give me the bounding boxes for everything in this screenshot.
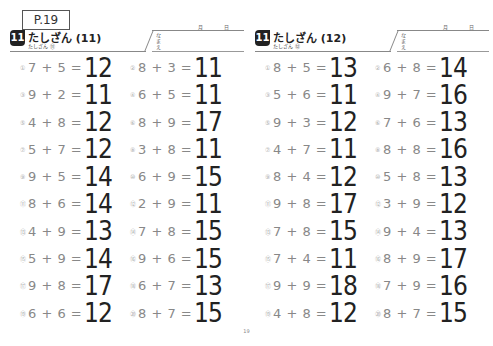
problem-number: ⑯	[130, 254, 138, 263]
problem-item: ⑩5 + 8 =13	[375, 163, 485, 190]
problem-item: ⑯9 + 6 =15	[130, 245, 240, 272]
problem-answer[interactable]: 15	[194, 246, 222, 272]
problem-answer[interactable]: 11	[329, 136, 357, 162]
problem-answer[interactable]: 16	[439, 273, 467, 299]
header-underline	[255, 51, 391, 52]
problem-answer[interactable]: 15	[194, 218, 222, 244]
problem-answer[interactable]: 12	[329, 300, 357, 326]
header-underline	[10, 51, 146, 52]
problem-answer[interactable]: 11	[194, 55, 222, 81]
problem-answer[interactable]: 14	[84, 191, 112, 217]
problem-equation: 9 + 8 =	[273, 196, 327, 211]
name-date-box[interactable]: なまえ月日	[389, 26, 489, 52]
problem-answer[interactable]: 13	[439, 164, 467, 190]
problem-item: ⑨8 + 4 =12	[265, 163, 375, 190]
problem-number: ⑰	[265, 281, 273, 290]
problem-number: ⑭	[130, 227, 138, 236]
worksheet-header: 11たしざん (12)たしざん ⑫なまえ月日	[255, 26, 485, 52]
problem-item: ⑯8 + 9 =17	[375, 245, 485, 272]
problem-answer[interactable]: 15	[439, 300, 467, 326]
problem-answer[interactable]: 11	[194, 82, 222, 108]
problem-number: ②	[130, 64, 138, 71]
problem-answer[interactable]: 15	[194, 300, 222, 326]
problem-answer[interactable]: 11	[329, 246, 357, 272]
problem-number: ⑫	[375, 199, 383, 208]
problem-answer[interactable]: 13	[329, 55, 357, 81]
problem-item: ②6 + 8 =14	[375, 54, 485, 81]
problem-equation: 4 + 7 =	[273, 142, 327, 157]
problem-number: ⑦	[265, 146, 273, 153]
problem-answer[interactable]: 12	[84, 300, 112, 326]
problem-item: ⑧8 + 8 =16	[375, 136, 485, 163]
problem-answer[interactable]: 11	[194, 136, 222, 162]
problem-item: ⑨9 + 5 =14	[20, 163, 130, 190]
problem-item: ⑰9 + 9 =18	[265, 272, 375, 299]
problem-answer[interactable]: 11	[84, 82, 112, 108]
problem-equation: 9 + 2 =	[28, 87, 82, 102]
problem-answer[interactable]: 11	[194, 191, 222, 217]
problem-number: ⑯	[375, 254, 383, 263]
problem-item: ⑱7 + 9 =16	[375, 272, 485, 299]
problem-equation: 8 + 9 =	[383, 251, 437, 266]
problem-answer[interactable]: 13	[439, 218, 467, 244]
worksheet-subtitle: たしざん ⑪	[28, 42, 55, 49]
problem-item: ④9 + 7 =16	[375, 81, 485, 108]
problem-answer[interactable]: 13	[439, 109, 467, 135]
problem-answer[interactable]: 15	[194, 164, 222, 190]
name-label: なまえ	[401, 32, 407, 50]
name-label: なまえ	[156, 32, 162, 50]
problem-item: ①7 + 5 =12	[20, 54, 130, 81]
problem-answer[interactable]: 17	[194, 109, 222, 135]
problem-equation: 5 + 6 =	[273, 87, 327, 102]
problem-answer[interactable]: 16	[439, 136, 467, 162]
problem-equation: 3 + 9 =	[383, 196, 437, 211]
problem-answer[interactable]: 17	[84, 273, 112, 299]
problem-number: ⑲	[20, 309, 28, 318]
problem-equation: 9 + 7 =	[383, 87, 437, 102]
worksheet-subtitle: たしざん ⑫	[273, 42, 300, 49]
problem-item: ③5 + 6 =11	[265, 81, 375, 108]
problem-equation: 8 + 8 =	[383, 142, 437, 157]
problem-answer[interactable]: 18	[329, 273, 357, 299]
day-label: 日	[224, 23, 229, 30]
problem-equation: 7 + 9 =	[383, 278, 437, 293]
problem-item: ⑲6 + 6 =12	[20, 300, 130, 327]
problem-number: ⑨	[20, 173, 28, 180]
problem-item: ⑬7 + 8 =15	[265, 218, 375, 245]
problem-answer[interactable]: 12	[84, 55, 112, 81]
problem-equation: 6 + 8 =	[383, 60, 437, 75]
problem-equation: 7 + 6 =	[383, 115, 437, 130]
problem-equation: 8 + 9 =	[138, 115, 192, 130]
problem-answer[interactable]: 16	[439, 82, 467, 108]
problem-answer[interactable]: 12	[439, 191, 467, 217]
problem-item: ⑭7 + 8 =15	[130, 218, 240, 245]
problem-number: ⑱	[375, 281, 383, 290]
problem-answer[interactable]: 13	[194, 273, 222, 299]
problem-number: ⑧	[375, 146, 383, 153]
problem-equation: 9 + 5 =	[28, 169, 82, 184]
problem-item: ①8 + 5 =13	[265, 54, 375, 81]
problem-equation: 6 + 9 =	[138, 169, 192, 184]
name-date-box[interactable]: なまえ月日	[144, 26, 244, 52]
problem-item: ⑳8 + 7 =15	[130, 300, 240, 327]
problem-number: ⑩	[130, 173, 138, 180]
problem-number: ①	[20, 64, 28, 71]
problem-number: ④	[375, 91, 383, 98]
problem-item: ⑤4 + 8 =12	[20, 109, 130, 136]
problem-answer[interactable]: 12	[329, 109, 357, 135]
problem-item: ⑦4 + 7 =11	[265, 136, 375, 163]
problem-equation: 9 + 4 =	[383, 224, 437, 239]
problem-answer[interactable]: 12	[84, 109, 112, 135]
problem-answer[interactable]: 13	[84, 218, 112, 244]
problem-number: ⑭	[375, 227, 383, 236]
problem-equation: 4 + 9 =	[28, 224, 82, 239]
problem-answer[interactable]: 15	[329, 218, 357, 244]
problem-answer[interactable]: 14	[439, 55, 467, 81]
problem-answer[interactable]: 11	[329, 82, 357, 108]
problem-answer[interactable]: 14	[84, 246, 112, 272]
problem-answer[interactable]: 17	[329, 191, 357, 217]
problem-answer[interactable]: 14	[84, 164, 112, 190]
problem-answer[interactable]: 17	[439, 246, 467, 272]
problem-answer[interactable]: 12	[329, 164, 357, 190]
problem-answer[interactable]: 12	[84, 136, 112, 162]
